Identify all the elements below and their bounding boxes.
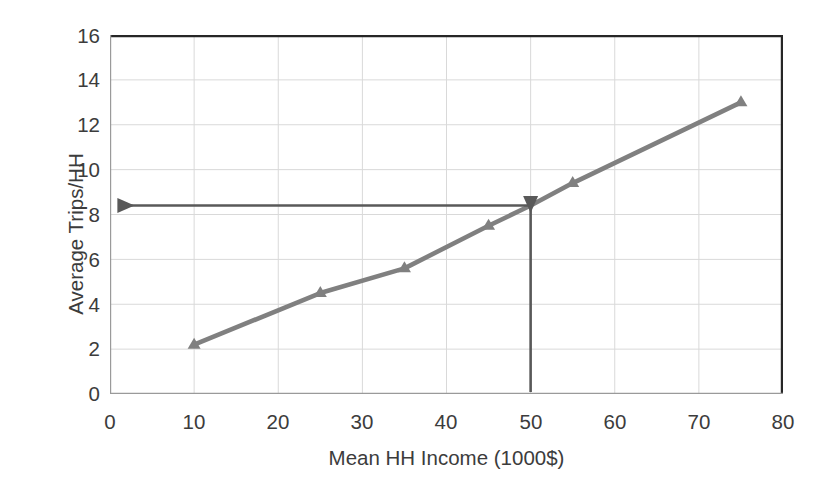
x-tick-label-80: 80 — [753, 410, 813, 434]
x-tick-label-30: 30 — [332, 410, 392, 434]
x-tick-label-50: 50 — [501, 410, 561, 434]
plot-svg — [110, 35, 783, 394]
data-series-line — [194, 102, 741, 344]
y-tick-label-2: 2 — [46, 337, 100, 361]
plot-area — [110, 35, 783, 394]
x-tick-label-0: 0 — [80, 410, 140, 434]
x-tick-label-20: 20 — [248, 410, 308, 434]
y-tick-label-8: 8 — [46, 203, 100, 227]
y-tick-label-12: 12 — [46, 113, 100, 137]
x-axis-title: Mean HH Income (1000$) — [110, 446, 783, 470]
x-tick-label-10: 10 — [164, 410, 224, 434]
y-tick-label-6: 6 — [46, 248, 100, 272]
y-tick-label-14: 14 — [46, 68, 100, 92]
x-tick-label-70: 70 — [669, 410, 729, 434]
y-tick-label-0: 0 — [46, 382, 100, 406]
x-tick-label-40: 40 — [416, 410, 476, 434]
y-tick-label-4: 4 — [46, 293, 100, 317]
chart-figure: Average Trips/HH Mean HH Income (1000$) … — [0, 0, 823, 499]
x-tick-label-60: 60 — [585, 410, 645, 434]
data-marker-point-6 — [734, 95, 747, 106]
y-tick-label-16: 16 — [46, 24, 100, 48]
y-tick-label-10: 10 — [46, 158, 100, 182]
